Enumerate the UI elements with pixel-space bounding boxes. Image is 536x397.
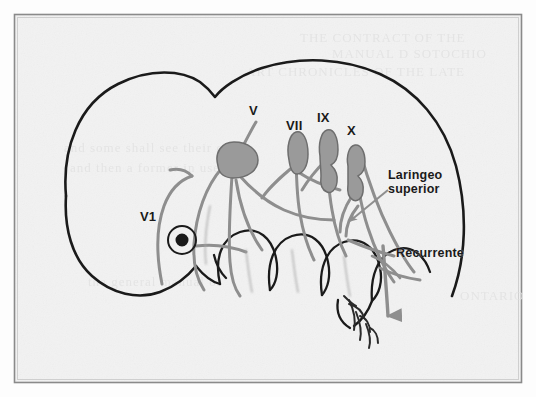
svg-text:THE CONTRACT OF THE: THE CONTRACT OF THE xyxy=(300,30,466,45)
label-laringeo-superior: Laringeo superior xyxy=(388,168,442,196)
label-vagus-x: X xyxy=(347,124,356,139)
facial-ganglion xyxy=(288,132,308,174)
label-facial-vii: VII xyxy=(286,119,303,134)
label-trigeminal-v: V xyxy=(249,104,258,119)
label-recurrente: Recurrente xyxy=(396,246,464,260)
trigeminal-ganglion xyxy=(217,142,258,178)
svg-text:and then a former in use: and then a former in use xyxy=(70,160,220,175)
svg-text:and some shall see their own: and some shall see their own xyxy=(64,140,242,155)
anatomical-figure: THE CONTRACT OF THE MANUAL D SOTOCHIO AR… xyxy=(0,0,536,397)
vagus-ganglion xyxy=(347,145,365,201)
svg-text:ONTARIO: ONTARIO xyxy=(460,288,524,303)
label-ophthalmic-v1: V1 xyxy=(140,210,156,225)
svg-text:MANUAL D SOTOCHIO: MANUAL D SOTOCHIO xyxy=(332,46,487,61)
diagram-canvas: THE CONTRACT OF THE MANUAL D SOTOCHIO AR… xyxy=(0,0,536,397)
label-glossopharyngeal-ix: IX xyxy=(317,111,330,126)
glossopharyngeal-ganglion xyxy=(319,130,338,193)
